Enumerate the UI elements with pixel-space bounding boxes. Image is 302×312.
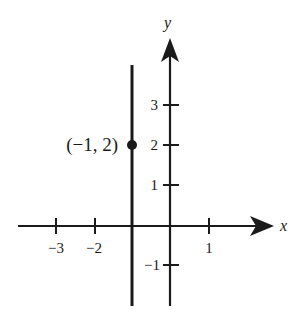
y-tick-label-3: 3	[151, 97, 159, 113]
y-tick-label-minus-1: −1	[144, 257, 160, 273]
x-axis: −3 −2 1 x	[18, 216, 287, 256]
x-tick-label-minus-3: −3	[48, 240, 64, 256]
x-axis-label: x	[279, 217, 287, 234]
point-label: (−1, 2)	[66, 134, 118, 156]
plot-canvas: −3 −2 1 x 3 2 1 −1 y (−1, 2)	[0, 0, 302, 312]
y-tick-label-1: 1	[151, 177, 159, 193]
y-axis-label: y	[162, 14, 172, 32]
point-dot	[127, 140, 137, 150]
coordinate-plane-figure: −3 −2 1 x 3 2 1 −1 y (−1, 2)	[0, 0, 302, 312]
x-tick-label-1: 1	[205, 240, 213, 256]
y-tick-label-2: 2	[151, 137, 159, 153]
y-axis: 3 2 1 −1 y	[144, 14, 179, 306]
x-tick-label-minus-2: −2	[86, 240, 102, 256]
